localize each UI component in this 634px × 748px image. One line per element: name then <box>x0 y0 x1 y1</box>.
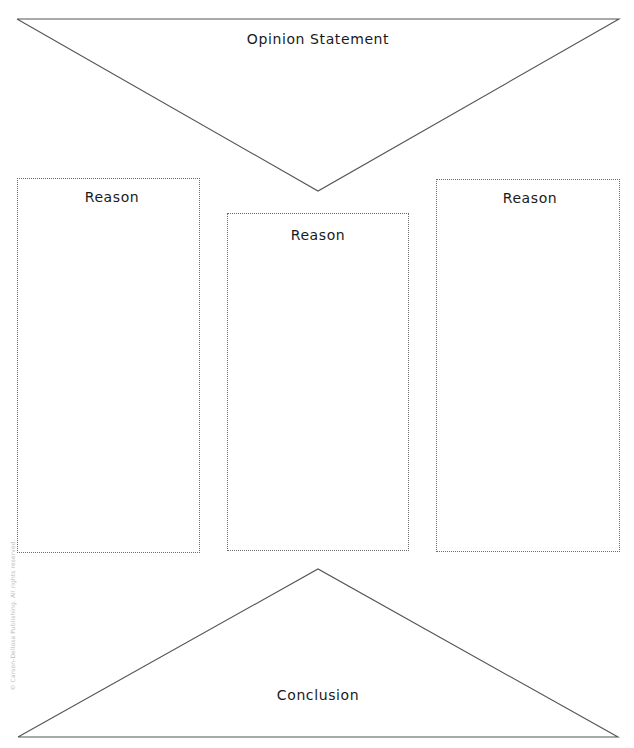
reason-label-left: Reason <box>85 189 140 205</box>
conclusion-label: Conclusion <box>277 687 359 703</box>
conclusion-triangle <box>18 569 618 737</box>
opinion-writing-organizer: Opinion Statement Reason Reason Reason C… <box>0 0 634 748</box>
copyright-notice: © Carson-Dellosa Publishing. All rights … <box>9 561 16 691</box>
reason-label-center: Reason <box>291 227 346 243</box>
opinion-statement-label: Opinion Statement <box>247 31 389 47</box>
reason-box-center[interactable] <box>227 213 409 551</box>
reason-label-right: Reason <box>503 190 558 206</box>
reason-box-right[interactable] <box>436 179 620 552</box>
reason-box-left[interactable] <box>17 178 200 553</box>
